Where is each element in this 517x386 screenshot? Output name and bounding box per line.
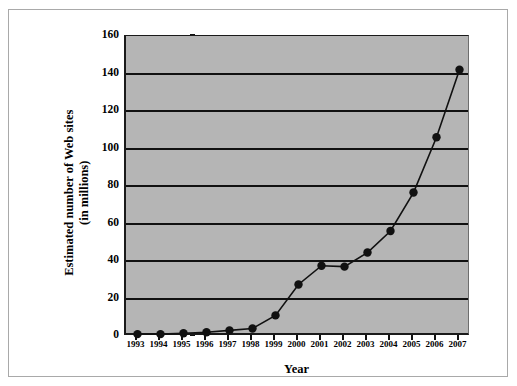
x-axis-tick-labels: 1993199419951996199719981999200020012002… [124, 340, 469, 356]
x-axis-tick-label: 1999 [265, 340, 283, 349]
data-point [455, 66, 463, 74]
y-axis-tick-label: 20 [108, 292, 120, 304]
data-point [432, 133, 440, 141]
y-axis-title-line-1: Estimated number of Web sites [62, 93, 77, 293]
series-polyline [138, 70, 460, 334]
chart-figure: 020406080100120140160 Estimated number o… [0, 0, 517, 386]
x-axis-tick-label: 1996 [196, 340, 214, 349]
x-axis-tick-label: 1994 [150, 340, 168, 349]
x-axis-tick-label: 2002 [334, 340, 352, 349]
y-axis-tick-label: 0 [113, 329, 119, 341]
data-point [248, 324, 256, 332]
data-point [363, 248, 371, 256]
y-axis-title: Estimated number of Web sites (in millio… [62, 93, 92, 293]
x-axis-tick-label: 1998 [242, 340, 260, 349]
series-markers [133, 66, 463, 339]
y-axis-tick-label: 80 [108, 179, 120, 191]
y-axis-tick-label: 60 [108, 217, 120, 229]
x-axis-tick-label: 2006 [426, 340, 444, 349]
y-axis-tick-label: 140 [102, 67, 119, 79]
line-series [126, 36, 471, 336]
x-axis-tick-label: 2003 [357, 340, 375, 349]
x-axis-tick-label: 2000 [288, 340, 306, 349]
x-axis-tick-label: 2001 [311, 340, 329, 349]
x-axis-tick-mark [296, 335, 298, 340]
x-axis-tick-label: 1993 [127, 340, 145, 349]
x-axis-tick-mark [135, 335, 137, 340]
x-axis-tick-mark [434, 335, 436, 340]
figure-frame: 020406080100120140160 Estimated number o… [8, 9, 508, 377]
data-point [340, 262, 348, 270]
x-axis-tick-label: 2004 [380, 340, 398, 349]
x-axis-tick-label: 1995 [173, 340, 191, 349]
data-point [271, 311, 279, 319]
x-axis-tick-mark [388, 335, 390, 340]
y-axis-tick-label: 160 [102, 29, 119, 41]
x-axis-tick-mark [204, 335, 206, 340]
data-point [386, 227, 394, 235]
x-axis-tick-mark [342, 335, 344, 340]
x-axis-title: Year [124, 362, 469, 377]
x-axis-tick-label: 2005 [403, 340, 421, 349]
x-axis-tick-label: 1997 [219, 340, 237, 349]
x-axis-tick-mark [365, 335, 367, 340]
data-point [294, 280, 302, 288]
x-axis-tick-mark [457, 335, 459, 340]
data-point [317, 261, 325, 269]
y-axis-tick-label: 120 [102, 104, 119, 116]
x-axis-tick-mark [227, 335, 229, 340]
x-axis-tick-mark [158, 335, 160, 340]
y-axis-title-wrapper: Estimated number of Web sites (in millio… [39, 70, 75, 300]
y-axis-tick-label: 100 [102, 142, 119, 154]
x-axis-tick-label: 2007 [449, 340, 467, 349]
x-axis-tick-mark [250, 335, 252, 340]
data-point [409, 188, 417, 196]
y-axis-title-line-2: (in millions) [77, 93, 92, 293]
data-point [225, 326, 233, 334]
x-axis-tick-mark [411, 335, 413, 340]
plot-area [124, 35, 469, 335]
y-axis-tick-label: 40 [108, 254, 120, 266]
x-axis-tick-mark [273, 335, 275, 340]
x-axis-tick-mark [319, 335, 321, 340]
x-axis-tick-mark [181, 335, 183, 340]
